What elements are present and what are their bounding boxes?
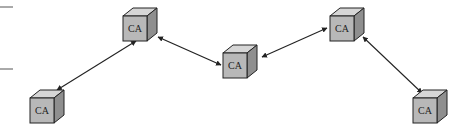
node-n2: CA (123, 8, 157, 41)
ca-network-diagram: CA CA CA CA CA (0, 0, 473, 131)
node-n1: CA (30, 90, 64, 123)
node-label: CA (418, 105, 433, 116)
node-n5: CA (413, 90, 447, 123)
node-label: CA (35, 105, 50, 116)
node-label: CA (335, 23, 350, 34)
edge-n1-n2 (57, 41, 136, 90)
edge-n4-n5 (363, 37, 422, 93)
edge-n2-n3 (158, 37, 221, 65)
node-n3: CA (223, 45, 257, 78)
edge-n3-n4 (262, 28, 327, 57)
node-label: CA (228, 60, 243, 71)
node-n4: CA (330, 8, 364, 41)
node-label: CA (128, 23, 143, 34)
